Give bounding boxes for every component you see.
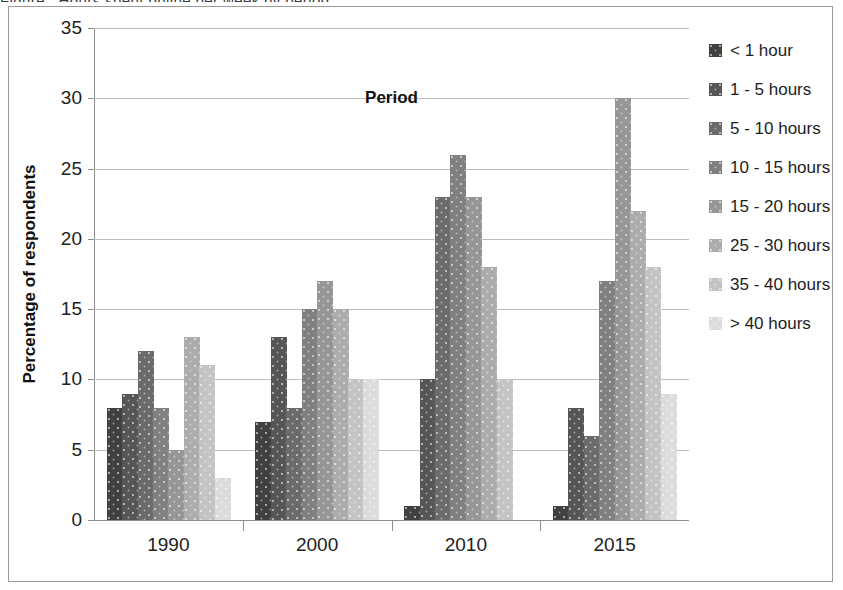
legend-label: 35 - 40 hours <box>730 275 830 295</box>
legend-item--1-hour[interactable]: < 1 hour <box>709 31 843 70</box>
y-axis-line <box>94 28 95 520</box>
legend-swatch-icon <box>709 317 722 330</box>
bar-2000--40-hours[interactable] <box>363 379 379 520</box>
bar-2015-5-10-hours[interactable] <box>584 436 600 520</box>
bar-2015-25-30-hours[interactable] <box>630 211 646 520</box>
chart-legend: < 1 hour1 - 5 hours5 - 10 hours10 - 15 h… <box>709 31 843 343</box>
legend-swatch-icon <box>709 122 722 135</box>
bar-2000-1-5-hours[interactable] <box>271 337 287 520</box>
legend-swatch-icon <box>709 278 722 291</box>
legend-swatch-icon <box>709 239 722 252</box>
legend-label: < 1 hour <box>730 41 793 61</box>
legend-label: 1 - 5 hours <box>730 80 811 100</box>
x-tick-mark-2 <box>392 520 393 531</box>
bar-2000-15-20-hours[interactable] <box>317 281 333 520</box>
bar-2010-10-15-hours[interactable] <box>450 155 466 520</box>
bar-1990--40-hours[interactable] <box>215 478 231 520</box>
bar-2010-5-10-hours[interactable] <box>435 197 451 520</box>
y-tick-mark-20 <box>88 239 94 240</box>
legend-item-5-10-hours[interactable]: 5 - 10 hours <box>709 109 843 148</box>
plot-area: 05101520253035 Percentage of respondents… <box>94 28 689 520</box>
y-tick-mark-25 <box>88 169 94 170</box>
legend-item-1-5-hours[interactable]: 1 - 5 hours <box>709 70 843 109</box>
bar-2015--40-hours[interactable] <box>661 394 677 521</box>
y-tick-mark-10 <box>88 379 94 380</box>
caption-bleed-text: Figure : Hours spent online per week by … <box>0 0 843 2</box>
bar-2015-35-40-hours[interactable] <box>645 267 661 520</box>
legend-label: > 40 hours <box>730 314 811 334</box>
bar-1990-1-5-hours[interactable] <box>122 394 138 521</box>
bar-1990--1-hour[interactable] <box>107 408 123 520</box>
bar-1990-5-10-hours[interactable] <box>138 351 154 520</box>
legend-item-10-15-hours[interactable]: 10 - 15 hours <box>709 148 843 187</box>
x-tick-label-1990: 1990 <box>147 534 189 556</box>
x-tick-label-2010: 2010 <box>445 534 487 556</box>
bar-2010-15-20-hours[interactable] <box>466 197 482 520</box>
bar-2010-35-40-hours[interactable] <box>497 379 513 520</box>
bar-2010-1-5-hours[interactable] <box>420 379 436 520</box>
bar-2015--1-hour[interactable] <box>553 506 569 520</box>
y-tick-label-20: 20 <box>61 228 82 250</box>
y-tick-label-35: 35 <box>61 17 82 39</box>
y-tick-mark-5 <box>88 450 94 451</box>
legend-swatch-icon <box>709 161 722 174</box>
y-tick-label-25: 25 <box>61 158 82 180</box>
bar-2000-35-40-hours[interactable] <box>348 379 364 520</box>
bar-2010--1-hour[interactable] <box>404 506 420 520</box>
bar-1990-25-30-hours[interactable] <box>184 337 200 520</box>
bar-2000--1-hour[interactable] <box>255 422 271 520</box>
x-tick-mark-1 <box>243 520 244 531</box>
legend-item-25-30-hours[interactable]: 25 - 30 hours <box>709 226 843 265</box>
legend-swatch-icon <box>709 44 722 57</box>
bar-1990-35-40-hours[interactable] <box>199 365 215 520</box>
y-tick-label-0: 0 <box>71 509 82 531</box>
legend-label: 5 - 10 hours <box>730 119 821 139</box>
bar-group-1990 <box>107 28 230 520</box>
y-tick-label-30: 30 <box>61 87 82 109</box>
x-tick-label-2015: 2015 <box>593 534 635 556</box>
legend-label: 25 - 30 hours <box>730 236 830 256</box>
x-tick-mark-3 <box>540 520 541 531</box>
legend-item--40-hours[interactable]: > 40 hours <box>709 304 843 343</box>
legend-swatch-icon <box>709 200 722 213</box>
legend-item-15-20-hours[interactable]: 15 - 20 hours <box>709 187 843 226</box>
bar-2015-10-15-hours[interactable] <box>599 281 615 520</box>
bar-1990-10-15-hours[interactable] <box>153 408 169 520</box>
bar-2000-5-10-hours[interactable] <box>286 408 302 520</box>
bar-1990-15-20-hours[interactable] <box>168 450 184 520</box>
y-tick-mark-35 <box>88 28 94 29</box>
y-tick-label-15: 15 <box>61 298 82 320</box>
y-axis-title: Percentage of respondents <box>20 164 40 383</box>
chart-figure: 05101520253035 Percentage of respondents… <box>8 6 833 582</box>
bar-group-2000 <box>255 28 378 520</box>
y-tick-label-5: 5 <box>71 439 82 461</box>
y-tick-mark-15 <box>88 309 94 310</box>
legend-label: 10 - 15 hours <box>730 158 830 178</box>
legend-item-35-40-hours[interactable]: 35 - 40 hours <box>709 265 843 304</box>
legend-label: 15 - 20 hours <box>730 197 830 217</box>
bar-2000-10-15-hours[interactable] <box>302 309 318 520</box>
bar-2015-15-20-hours[interactable] <box>615 98 631 520</box>
bar-2015-1-5-hours[interactable] <box>568 408 584 520</box>
legend-swatch-icon <box>709 83 722 96</box>
bar-2000-25-30-hours[interactable] <box>333 309 349 520</box>
bar-group-2010 <box>404 28 527 520</box>
bar-2010-25-30-hours[interactable] <box>481 267 497 520</box>
y-tick-mark-30 <box>88 98 94 99</box>
x-axis-title: Period <box>365 88 418 108</box>
bar-group-2015 <box>553 28 676 520</box>
x-tick-label-2000: 2000 <box>296 534 338 556</box>
y-tick-label-10: 10 <box>61 368 82 390</box>
x-axis-ticks: 1990200020102015 <box>94 520 689 566</box>
